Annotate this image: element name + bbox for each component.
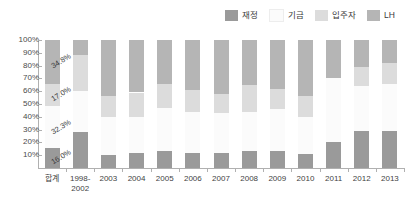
bar-segment[interactable] <box>326 142 341 168</box>
bar-group[interactable] <box>73 40 88 168</box>
bar-segment[interactable] <box>73 91 88 132</box>
x-axis-tick-label: 2006 <box>179 174 207 184</box>
x-axis-tick-mark <box>348 168 349 172</box>
bar-segment[interactable] <box>214 113 229 153</box>
bar-segment[interactable] <box>157 40 172 84</box>
x-axis-tick-mark <box>179 168 180 172</box>
legend-item-tenant[interactable]: 입주자 <box>315 10 356 21</box>
bar-segment[interactable] <box>214 40 229 94</box>
bar-segment[interactable] <box>129 117 144 153</box>
stacked-bar-chart: 재정기금입주자LH 100%90%80%70%60%50%40%30%20%10… <box>0 0 409 205</box>
bar-stack <box>298 40 313 168</box>
bar-segment[interactable] <box>354 131 369 168</box>
bar-group[interactable] <box>101 40 116 168</box>
legend-label-lh: LH <box>384 10 395 21</box>
bar-segment[interactable] <box>382 63 397 83</box>
bar-group[interactable] <box>157 40 172 168</box>
bar-group[interactable] <box>382 40 397 168</box>
legend-item-lh[interactable]: LH <box>367 10 395 21</box>
bar-group[interactable] <box>242 40 257 168</box>
bar-segment[interactable] <box>242 151 257 168</box>
bar-segment[interactable] <box>382 40 397 63</box>
bar-segment[interactable] <box>242 112 257 152</box>
bar-segment[interactable] <box>298 154 313 168</box>
bar-segment[interactable] <box>354 86 369 131</box>
x-axis-tick-label: 2009 <box>263 174 291 184</box>
bar-group[interactable] <box>185 40 200 168</box>
bar-stack <box>242 40 257 168</box>
y-axis-tick-mark <box>38 155 42 156</box>
legend-item-fiscal[interactable]: 재정 <box>225 10 258 21</box>
bar-stack <box>129 40 144 168</box>
bar-segment[interactable] <box>185 153 200 168</box>
bar-segment[interactable] <box>242 40 257 85</box>
bar-segment[interactable] <box>73 55 88 91</box>
bar-segment[interactable] <box>73 132 88 168</box>
x-axis-tick-mark <box>151 168 152 172</box>
x-axis-tick-mark <box>263 168 264 172</box>
chart-legend: 재정기금입주자LH <box>225 7 406 23</box>
bar-segment[interactable] <box>101 155 116 168</box>
bar-group[interactable] <box>129 40 144 168</box>
bar-segment[interactable] <box>298 40 313 96</box>
bar-segment[interactable] <box>185 40 200 90</box>
bar-segment[interactable] <box>129 93 144 117</box>
x-axis-tick-mark <box>376 168 377 172</box>
bar-segment[interactable] <box>354 67 369 86</box>
bar-segment[interactable] <box>382 84 397 131</box>
bar-segment[interactable] <box>129 153 144 168</box>
y-axis-tick-mark <box>38 53 42 54</box>
bar-segment[interactable] <box>270 109 285 151</box>
bar-stack <box>157 40 172 168</box>
x-axis-tick-label: 합계 <box>38 174 66 184</box>
y-axis-tick-mark <box>38 117 42 118</box>
bar-segment[interactable] <box>73 40 88 55</box>
bar-segment[interactable] <box>298 96 313 116</box>
bar-segment[interactable] <box>354 40 369 67</box>
bar-group[interactable] <box>270 40 285 168</box>
y-axis-tick-mark <box>38 130 42 131</box>
legend-item-fund[interactable]: 기금 <box>269 9 304 22</box>
bar-stack <box>270 40 285 168</box>
bar-segment[interactable] <box>101 96 116 116</box>
bar-segment[interactable] <box>214 94 229 113</box>
bar-segment[interactable] <box>242 85 257 112</box>
bar-segment[interactable] <box>157 84 172 108</box>
bar-segment[interactable] <box>326 40 341 78</box>
bar-segment[interactable] <box>157 151 172 168</box>
y-axis-tick-mark <box>38 78 42 79</box>
x-axis-tick-mark <box>320 168 321 172</box>
x-axis-tick-label: 2003 <box>94 174 122 184</box>
bar-stack <box>73 40 88 168</box>
bar-segment[interactable] <box>185 90 200 112</box>
x-axis-tick-mark <box>94 168 95 172</box>
bar-segment[interactable] <box>270 40 285 89</box>
bar-segment[interactable] <box>101 117 116 155</box>
bar-stack <box>214 40 229 168</box>
legend-label-fund: 기금 <box>288 10 304 21</box>
x-axis-tick-label: 2005 <box>151 174 179 184</box>
bar-segment[interactable] <box>129 40 144 92</box>
legend-swatch-lh <box>367 10 380 21</box>
bar-segment[interactable] <box>298 117 313 154</box>
bar-group[interactable] <box>298 40 313 168</box>
y-axis-tick-mark <box>38 142 42 143</box>
bar-group[interactable] <box>354 40 369 168</box>
bar-segment[interactable] <box>382 131 397 168</box>
x-axis-tick-mark <box>66 168 67 172</box>
bar-segment[interactable] <box>157 108 172 152</box>
legend-swatch-tenant <box>315 10 328 21</box>
bar-segment[interactable] <box>185 112 200 153</box>
bar-group[interactable] <box>326 40 341 168</box>
bar-stack <box>101 40 116 168</box>
bar-segment[interactable] <box>214 153 229 168</box>
bar-segment[interactable] <box>270 151 285 168</box>
y-axis-tick-mark <box>38 40 42 41</box>
x-axis-tick-label: 2013 <box>376 174 404 184</box>
bar-segment[interactable] <box>270 89 285 109</box>
bar-group[interactable] <box>214 40 229 168</box>
x-axis-tick-mark <box>235 168 236 172</box>
bar-segment[interactable] <box>101 40 116 96</box>
legend-label-tenant: 입주자 <box>332 10 356 21</box>
bar-segment[interactable] <box>326 78 341 142</box>
